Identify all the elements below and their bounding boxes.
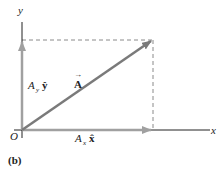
y-component-coef: A [27,79,35,91]
x-component-unit: x̂ [89,132,95,144]
x-component-subscript: x [82,139,87,147]
y-component-unit: ŷ [42,79,48,91]
y-axis-label: y [17,4,23,16]
panel-label: (b) [8,154,22,167]
origin-label: O [10,130,18,142]
vector-a-label: A [74,78,82,90]
y-component-subscript: y [35,86,40,94]
x-axis-label: x [210,124,216,136]
x-component-coef: A [74,132,82,144]
vector-components-diagram: y x O → A A y ŷ A x x̂ (b) [0,0,218,176]
